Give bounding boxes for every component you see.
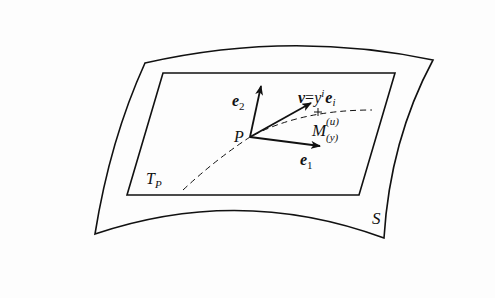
e2-label: e2 xyxy=(232,92,245,112)
point-p-label: P xyxy=(233,128,244,145)
tangent-plane-label: TP xyxy=(146,170,162,190)
vector-e1-arrow xyxy=(250,137,320,146)
e1-label: e1 xyxy=(300,151,313,171)
tangent-plane-outline xyxy=(127,73,395,195)
v-equation-label: v=yiei xyxy=(298,87,335,108)
surface-s-outline xyxy=(95,46,433,238)
vector-e2-arrow xyxy=(250,86,261,137)
diagram-svg: P e2 e1 v=yiei M (u) (y) TP S xyxy=(0,0,495,298)
m-base-label: M xyxy=(311,121,327,140)
m-superscript-label: (u) xyxy=(326,115,339,128)
vector-v-arrow xyxy=(250,103,311,137)
tangent-plane-diagram: P e2 e1 v=yiei M (u) (y) TP S xyxy=(0,0,495,298)
m-subscript-label: (y) xyxy=(326,131,339,144)
surface-s-label: S xyxy=(372,209,381,228)
